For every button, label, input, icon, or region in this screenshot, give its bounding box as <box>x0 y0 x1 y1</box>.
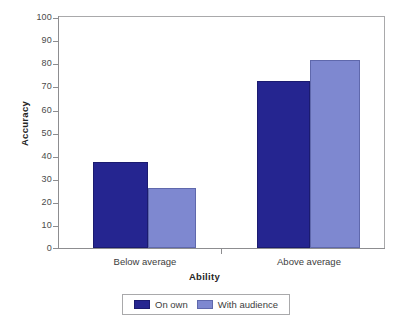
legend-label-on-own: On own <box>155 300 188 310</box>
y-tick-label-80: 80 <box>24 59 52 68</box>
x-axis-title: Ability <box>0 271 409 282</box>
y-axis-title: Accuracy <box>19 84 30 164</box>
bars-layer <box>59 16 384 248</box>
y-tick-label-90: 90 <box>24 36 52 45</box>
y-tick-mark-20 <box>53 203 58 204</box>
chart-legend: On own With audience <box>122 294 290 315</box>
y-tick-mark-50 <box>53 134 58 135</box>
y-tick-label-20: 20 <box>24 198 52 207</box>
x-tick-mark-center <box>221 249 222 254</box>
y-tick-mark-90 <box>53 41 58 42</box>
bar-above-average-on-own <box>257 81 310 248</box>
y-tick-mark-80 <box>53 64 58 65</box>
legend-item-with-audience: With audience <box>197 300 278 310</box>
y-tick-label-30: 30 <box>24 175 52 184</box>
bar-chart: 100 90 80 70 60 50 40 30 20 10 0 Accurac… <box>0 0 409 330</box>
bar-below-average-with-audience <box>148 188 196 248</box>
y-tick-mark-30 <box>53 180 58 181</box>
bar-below-average-on-own <box>93 162 148 248</box>
y-tick-mark-40 <box>53 157 58 158</box>
y-tick-label-100: 100 <box>24 13 52 22</box>
y-tick-mark-0 <box>53 248 58 249</box>
x-tick-label-below-average: Below average <box>75 256 215 267</box>
bar-above-average-with-audience <box>310 60 360 248</box>
legend-item-on-own: On own <box>134 300 188 310</box>
legend-label-with-audience: With audience <box>218 300 278 310</box>
y-tick-label-10: 10 <box>24 221 52 230</box>
y-tick-mark-100 <box>53 18 58 19</box>
y-tick-mark-10 <box>53 226 58 227</box>
legend-swatch-on-own-icon <box>134 300 150 309</box>
y-tick-mark-70 <box>53 87 58 88</box>
x-tick-label-above-average: Above average <box>239 256 379 267</box>
y-tick-label-0: 0 <box>24 244 52 253</box>
y-tick-mark-60 <box>53 111 58 112</box>
legend-swatch-with-audience-icon <box>197 300 213 309</box>
